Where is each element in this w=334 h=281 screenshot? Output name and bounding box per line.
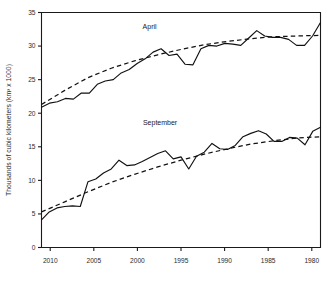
y-axis-tick-label: 10 bbox=[28, 177, 36, 184]
y-axis-tick-label: 30 bbox=[28, 42, 36, 49]
y-axis-title: Thousands of cubic kilometers (km³ x 100… bbox=[5, 64, 13, 196]
y-axis-tick-label: 15 bbox=[28, 143, 36, 150]
x-axis-tick-label: 1995 bbox=[174, 257, 189, 264]
line-chart: 05101520253035 2010200520001995199019851… bbox=[0, 0, 334, 281]
y-axis-tick-label: 5 bbox=[32, 210, 36, 217]
x-axis-tick-label: 1990 bbox=[217, 257, 232, 264]
chart-container: 05101520253035 2010200520001995199019851… bbox=[0, 0, 334, 281]
x-axis-tick-label: 1980 bbox=[304, 257, 319, 264]
series-label-april: April bbox=[143, 23, 157, 31]
x-axis-tick-label: 2010 bbox=[43, 257, 58, 264]
series-label-september: September bbox=[143, 119, 178, 127]
y-axis-tick-label: 20 bbox=[28, 110, 36, 117]
x-axis-tick-label: 1985 bbox=[261, 257, 276, 264]
x-axis-tick-label: 2000 bbox=[130, 257, 145, 264]
y-axis-tick-label: 0 bbox=[32, 244, 36, 251]
x-axis-tick-label: 2005 bbox=[86, 257, 101, 264]
y-axis-tick-label: 25 bbox=[28, 76, 36, 83]
y-axis-tick-label: 35 bbox=[28, 9, 36, 16]
